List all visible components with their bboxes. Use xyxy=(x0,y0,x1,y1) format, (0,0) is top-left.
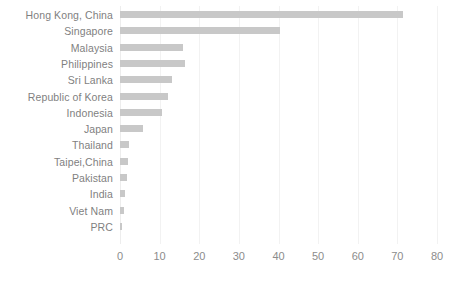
category-label: PRC xyxy=(0,222,113,233)
category-label: Philippines xyxy=(0,59,113,70)
bar[interactable] xyxy=(120,11,403,18)
bar[interactable] xyxy=(120,93,168,100)
tick-label-0: 0 xyxy=(105,250,135,263)
category-label: India xyxy=(0,189,113,200)
bar[interactable] xyxy=(120,141,129,148)
bar[interactable] xyxy=(120,27,280,34)
bars-layer xyxy=(120,6,437,244)
plot-area xyxy=(120,6,437,244)
category-label: Taipei,China xyxy=(0,157,113,168)
bar[interactable] xyxy=(120,174,127,181)
category-label: Singapore xyxy=(0,26,113,37)
bar[interactable] xyxy=(120,125,143,132)
category-label: Sri Lanka xyxy=(0,75,113,86)
category-label: Indonesia xyxy=(0,108,113,119)
tick-label-20: 20 xyxy=(184,250,214,263)
category-label: Republic of Korea xyxy=(0,92,113,103)
bar-chart: Hong Kong, ChinaSingaporeMalaysiaPhilipp… xyxy=(0,0,464,282)
bar[interactable] xyxy=(120,207,124,214)
bar[interactable] xyxy=(120,60,185,67)
bar[interactable] xyxy=(120,223,122,230)
category-label: Thailand xyxy=(0,140,113,151)
tick-label-80: 80 xyxy=(422,250,452,263)
tick-label-60: 60 xyxy=(343,250,373,263)
bar[interactable] xyxy=(120,44,183,51)
bar[interactable] xyxy=(120,190,125,197)
tick-label-70: 70 xyxy=(382,250,412,263)
category-axis-labels: Hong Kong, ChinaSingaporeMalaysiaPhilipp… xyxy=(0,6,113,244)
tick-label-40: 40 xyxy=(264,250,294,263)
category-label: Hong Kong, China xyxy=(0,10,113,21)
category-label: Japan xyxy=(0,124,113,135)
category-label: Viet Nam xyxy=(0,206,113,217)
tick-label-50: 50 xyxy=(303,250,333,263)
bar[interactable] xyxy=(120,158,128,165)
tick-label-10: 10 xyxy=(145,250,175,263)
gridline-80 xyxy=(437,6,438,244)
category-label: Pakistan xyxy=(0,173,113,184)
value-axis-tick-labels: 01020304050607080 xyxy=(0,250,464,270)
category-label: Malaysia xyxy=(0,43,113,54)
bar[interactable] xyxy=(120,109,162,116)
tick-label-30: 30 xyxy=(224,250,254,263)
bar[interactable] xyxy=(120,76,172,83)
